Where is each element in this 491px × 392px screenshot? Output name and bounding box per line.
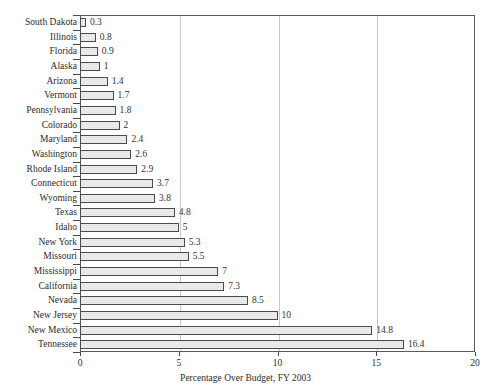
bar-value-label: 2.9 (141, 163, 153, 175)
x-tick-label: 0 (65, 357, 95, 369)
category-tick (73, 249, 80, 250)
category-tick (73, 205, 80, 206)
x-axis-title: Percentage Over Budget, FY 2003 (0, 372, 491, 384)
x-tick-label: 15 (361, 357, 391, 369)
bar-value-label: 8.5 (252, 294, 264, 306)
category-label: Texas (0, 206, 77, 218)
category-label: Rhode Island (0, 163, 77, 175)
category-tick (73, 293, 80, 294)
bar-value-label: 4.8 (179, 206, 191, 218)
bar-row: 3.7 (80, 176, 475, 192)
bar-value-label: 7.3 (228, 280, 240, 292)
bar-value-label: 5.3 (189, 236, 201, 248)
bar (80, 165, 137, 174)
bar (80, 33, 96, 42)
bar (80, 121, 120, 130)
category-label: Tennessee (0, 338, 77, 350)
bar-value-label: 10 (282, 309, 292, 321)
bar (80, 326, 372, 335)
bar (80, 150, 131, 159)
x-tick (80, 352, 81, 356)
category-label: Alaska (0, 60, 77, 72)
category-tick (73, 103, 80, 104)
category-tick (73, 264, 80, 265)
bar-row: 14.8 (80, 323, 475, 339)
bar-row: 5.5 (80, 249, 475, 265)
category-label: South Dakota (0, 16, 77, 28)
category-tick (73, 118, 80, 119)
bar-row: 1.7 (80, 88, 475, 104)
category-tick (73, 191, 80, 192)
category-label: Wyoming (0, 192, 77, 204)
category-tick (73, 44, 80, 45)
category-tick (73, 162, 80, 163)
category-label: Washington (0, 148, 77, 160)
x-tick (278, 352, 279, 356)
bar-row: 4.8 (80, 205, 475, 221)
bar-row: 16.4 (80, 337, 475, 353)
category-label: Pennsylvania (0, 104, 77, 116)
bar-row: 1 (80, 59, 475, 75)
category-tick (73, 235, 80, 236)
bar-row: 10 (80, 308, 475, 324)
bar (80, 311, 278, 320)
category-label: Mississippi (0, 265, 77, 277)
bar (80, 267, 218, 276)
category-label: Idaho (0, 221, 77, 233)
category-tick (73, 88, 80, 89)
bar-row: 2 (80, 118, 475, 134)
category-label: Connecticut (0, 177, 77, 189)
category-tick (73, 279, 80, 280)
category-tick (73, 176, 80, 177)
category-label: New Mexico (0, 324, 77, 336)
bar-row: 2.9 (80, 162, 475, 178)
bar (80, 106, 116, 115)
category-label: Nevada (0, 294, 77, 306)
bar-chart: South DakotaIllinoisFloridaAlaskaArizona… (0, 0, 491, 392)
bar-value-label: 5 (183, 221, 188, 233)
category-label: Arizona (0, 75, 77, 87)
bar (80, 62, 100, 71)
x-tick-label: 10 (263, 357, 293, 369)
bar-row: 7.3 (80, 279, 475, 295)
bar (80, 179, 153, 188)
category-label: Florida (0, 45, 77, 57)
bar-row: 0.3 (80, 15, 475, 31)
category-label: Illinois (0, 31, 77, 43)
bar-value-label: 3.8 (159, 192, 171, 204)
bar (80, 91, 114, 100)
category-tick (73, 323, 80, 324)
bar-row: 1.4 (80, 74, 475, 90)
bar-row: 5.3 (80, 235, 475, 251)
bar-value-label: 0.8 (100, 31, 112, 43)
category-tick (73, 15, 80, 16)
bar-row: 2.4 (80, 132, 475, 148)
category-label: New Jersey (0, 309, 77, 321)
x-tick (475, 352, 476, 356)
category-tick (73, 132, 80, 133)
category-tick (73, 337, 80, 338)
bar (80, 340, 404, 349)
category-label: Vermont (0, 89, 77, 101)
bar-row: 7 (80, 264, 475, 280)
bar-value-label: 14.8 (376, 324, 393, 336)
bar-value-label: 0.3 (90, 16, 102, 28)
bar-value-label: 1.4 (112, 75, 124, 87)
bar-value-label: 3.7 (157, 177, 169, 189)
bar (80, 223, 179, 232)
bar (80, 238, 185, 247)
bar (80, 47, 98, 56)
category-tick (73, 352, 80, 353)
bar (80, 18, 86, 27)
bar-series: 0.30.80.911.41.71.822.42.62.93.73.84.855… (80, 15, 475, 352)
bar-row: 3.8 (80, 191, 475, 207)
bar-value-label: 7 (222, 265, 227, 277)
category-tick (73, 220, 80, 221)
category-tick (73, 59, 80, 60)
bar-value-label: 0.9 (102, 45, 114, 57)
bar (80, 252, 189, 261)
bar (80, 282, 224, 291)
category-label: New York (0, 236, 77, 248)
bar-value-label: 2.6 (135, 148, 147, 160)
bar-value-label: 1 (104, 60, 109, 72)
